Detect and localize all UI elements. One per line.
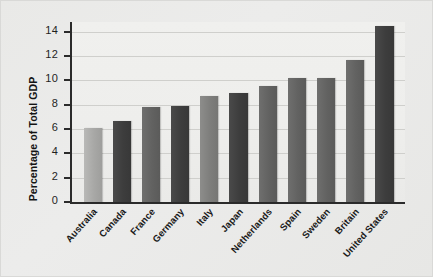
y-axis-tick-label: 14 (45, 24, 58, 36)
bar-slot (370, 22, 399, 202)
y-axis-tick-label: 12 (45, 48, 58, 60)
bar (200, 96, 218, 202)
y-axis-tick-label: 10 (45, 72, 58, 84)
bar (375, 26, 393, 202)
bar-slot (341, 22, 370, 202)
bar-slot (312, 22, 341, 202)
bar (259, 86, 277, 202)
x-label-slot: Spain (280, 204, 309, 277)
bar (171, 106, 189, 202)
x-label-slot: United States (368, 204, 397, 277)
plot-area (70, 22, 405, 204)
bar-slot (166, 22, 195, 202)
bar (229, 93, 247, 202)
y-axis-tick-mark (64, 79, 70, 81)
y-axis-title: Percentage of Total GDP (27, 54, 39, 224)
y-axis-tick-label: 4 (52, 145, 58, 157)
x-label-slot: Sweden (310, 204, 339, 277)
x-axis-tick-label: Spain (277, 206, 303, 233)
bar (346, 60, 364, 202)
y-axis-tick-mark (64, 31, 70, 33)
y-axis-tick-label: 8 (52, 97, 58, 109)
bar-slot (282, 22, 311, 202)
bar-slot (136, 22, 165, 202)
x-label-slot: Australia (76, 204, 105, 277)
x-label-slot: Italy (193, 204, 222, 277)
x-axis-labels: AustraliaCanadaFranceGermanyItalyJapanNe… (70, 204, 403, 277)
x-label-slot: Netherlands (251, 204, 280, 277)
y-axis-tick-mark (64, 128, 70, 130)
bar-series (72, 22, 405, 202)
bar (288, 78, 306, 202)
y-axis-tick-label: 6 (52, 121, 58, 133)
x-label-slot: Canada (105, 204, 134, 277)
bar-slot (78, 22, 107, 202)
bar-slot (253, 22, 282, 202)
bar-slot (107, 22, 136, 202)
y-axis: 02468101214 Percentage of Total GDP (0, 0, 70, 277)
bar (84, 128, 102, 202)
bar-chart-figure: 02468101214 Percentage of Total GDP Aust… (0, 0, 433, 277)
y-axis-tick-mark (64, 177, 70, 179)
y-axis-tick-label: 2 (52, 170, 58, 182)
y-axis-tick-label: 0 (52, 194, 58, 206)
y-axis-tick-mark (64, 152, 70, 154)
bar-slot (224, 22, 253, 202)
x-axis-tick-label: Japan (218, 206, 245, 234)
y-axis-tick-mark (64, 55, 70, 57)
y-axis-tick-mark (64, 201, 70, 203)
bar-slot (195, 22, 224, 202)
x-axis-tick-label: Italy (194, 206, 215, 228)
bar (142, 107, 160, 202)
y-axis-tick-mark (64, 104, 70, 106)
bar (317, 78, 335, 202)
x-label-slot: Germany (164, 204, 193, 277)
bar (113, 121, 131, 202)
